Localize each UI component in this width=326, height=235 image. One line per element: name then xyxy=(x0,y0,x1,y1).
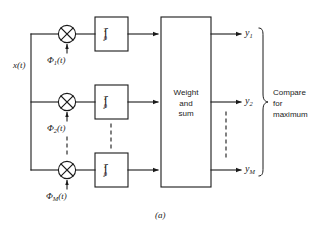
output-subscript-2: 2 xyxy=(249,100,252,107)
multiplier-1-cross xyxy=(61,28,73,40)
figure-caption: (a) xyxy=(155,211,166,220)
integrator-symbol-1: ∫T0 xyxy=(104,26,114,39)
integral-lower-limit-1: 0 xyxy=(104,35,107,41)
phi-label-3: ΦM(t) xyxy=(46,192,67,202)
phi-symbol-3: Φ xyxy=(46,191,53,201)
phi-arg-2: (t) xyxy=(57,123,66,133)
weight-and-sum-label: Weight and sum xyxy=(161,88,211,120)
integral-upper-limit-3: T xyxy=(104,163,107,169)
weight-and-sum-line-2: and xyxy=(161,99,211,110)
phi-label-2: Φ2(t) xyxy=(47,124,66,134)
phi-arg-3: (t) xyxy=(58,191,67,201)
integrator-symbol-3: ∫T0 xyxy=(104,162,114,175)
compare-for-maximum-label: Compare for maximum xyxy=(273,88,325,120)
phi-symbol-1: Φ xyxy=(47,55,54,65)
integral-lower-limit-2: 0 xyxy=(104,103,107,109)
compare-line-2: for xyxy=(273,99,325,110)
integrator-symbol-2: ∫T0 xyxy=(104,94,114,107)
integral-upper-limit-1: T xyxy=(104,27,107,33)
figure-container: x(t) Φ1(t) Φ2(t) ΦM(t) ∫T0 ∫T0 ∫T0 Weigh… xyxy=(0,0,326,235)
output-subscript-3: M xyxy=(249,168,254,175)
phi-arg-1: (t) xyxy=(57,55,66,65)
multiplier-2-cross xyxy=(61,96,73,108)
multiplier-3-cross xyxy=(61,164,73,176)
integral-upper-limit-2: T xyxy=(104,95,107,101)
phi-symbol-2: Φ xyxy=(47,123,54,133)
integral-lower-limit-3: 0 xyxy=(104,171,107,177)
compare-line-3: maximum xyxy=(273,110,325,121)
output-subscript-1: 1 xyxy=(249,32,252,39)
weight-and-sum-line-1: Weight xyxy=(161,88,211,99)
output-label-3: yM xyxy=(245,164,255,175)
weight-and-sum-line-3: sum xyxy=(161,109,211,120)
compare-brace xyxy=(259,28,268,176)
compare-line-1: Compare xyxy=(273,88,325,99)
output-label-1: y1 xyxy=(245,28,253,39)
input-signal-label: x(t) xyxy=(13,61,26,70)
phi-label-1: Φ1(t) xyxy=(47,56,66,66)
output-label-2: y2 xyxy=(245,96,253,107)
